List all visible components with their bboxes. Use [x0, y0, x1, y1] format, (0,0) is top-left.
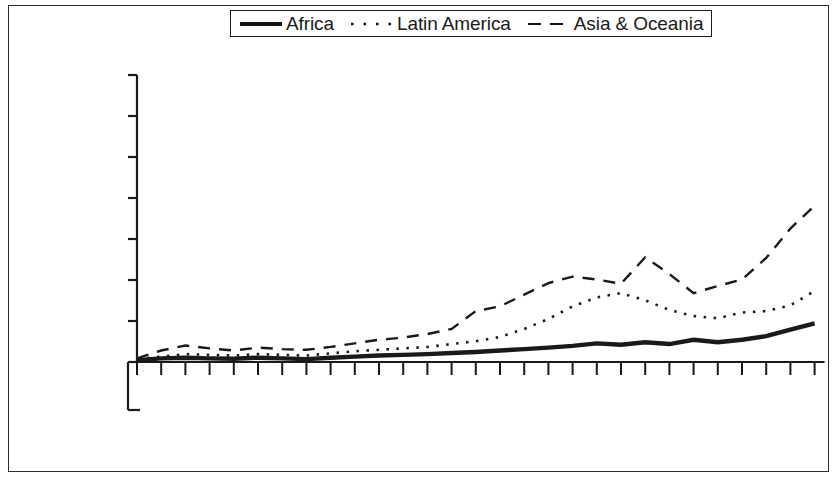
plot-svg — [0, 0, 837, 481]
legend-label-africa: Africa — [286, 14, 334, 33]
legend-entry-africa: Africa — [239, 14, 334, 33]
chart-legend: Africa Latin America Asia & Oceania — [230, 10, 712, 37]
legend-line-dashed-icon — [527, 18, 571, 30]
legend-line-solid-icon — [239, 18, 283, 30]
legend-entry-asia-oceania: Asia & Oceania — [527, 14, 704, 33]
series-line-asia-oceania — [137, 206, 815, 359]
legend-line-dotted-icon — [350, 18, 394, 30]
legend-label-asia-oceania: Asia & Oceania — [574, 14, 704, 33]
chart-figure: 199199199199199199199199209209 Africa La… — [0, 0, 837, 481]
legend-entry-latin-america: Latin America — [350, 14, 511, 33]
legend-label-latin-america: Latin America — [397, 14, 511, 33]
series-line-latin-america — [137, 291, 815, 359]
series-group — [137, 206, 815, 361]
plot-area — [0, 0, 837, 481]
